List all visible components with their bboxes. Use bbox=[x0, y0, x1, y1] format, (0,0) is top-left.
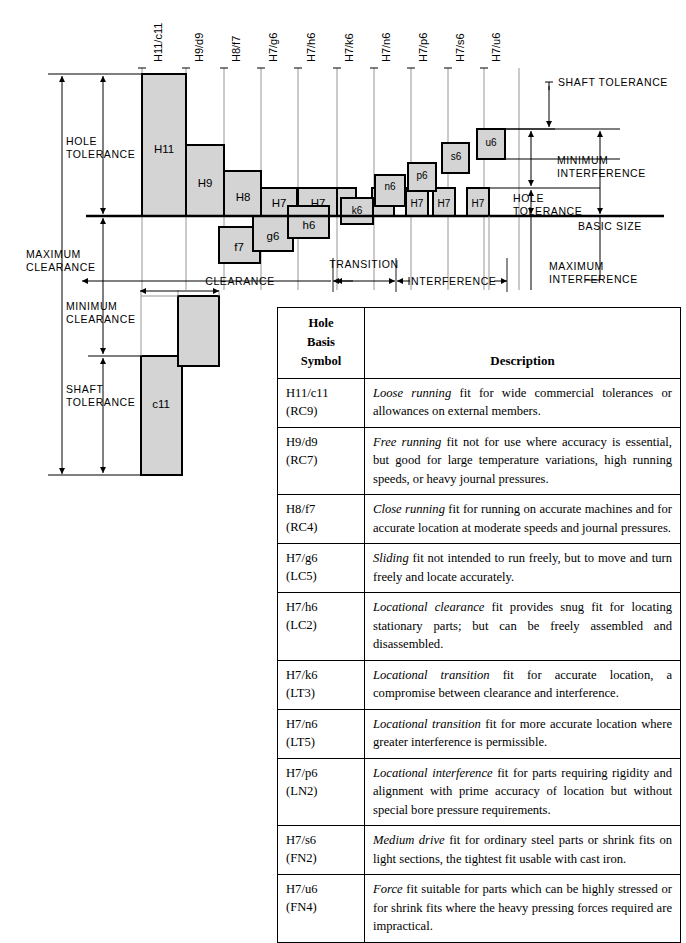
symbol-secondary: (LC5) bbox=[286, 567, 356, 585]
description-text: fit not intended to run freely, but to m… bbox=[373, 551, 672, 584]
column-label: H7/p6 bbox=[417, 33, 429, 62]
hole-bar-label: H7 bbox=[272, 197, 287, 209]
cell-description: Locational interference fit for parts re… bbox=[365, 758, 681, 826]
description-term: Force bbox=[373, 882, 403, 896]
description-term: Locational transition bbox=[373, 717, 481, 731]
symbol-primary: H7/g6 bbox=[286, 549, 356, 567]
hole-bar-label: H7 bbox=[411, 198, 424, 209]
description-term: Locational interference bbox=[373, 766, 493, 780]
hole-bar-label: H8 bbox=[236, 191, 251, 203]
shaft-bar-label: h6 bbox=[303, 219, 316, 231]
hole-bars: H11 H9 H8 H7 H7 H7 H7 H7 H7 H7 bbox=[142, 74, 489, 216]
shaft-bar-label: c11 bbox=[152, 398, 170, 410]
cell-hole-basis-symbol: H7/u6(FN4) bbox=[278, 875, 365, 943]
hole-bar-label: H7 bbox=[472, 198, 485, 209]
description-term: Close running bbox=[373, 502, 445, 516]
table-row: H7/p6(LN2)Locational interference fit fo… bbox=[278, 758, 681, 826]
symbol-secondary: (LT3) bbox=[286, 684, 356, 702]
cell-hole-basis-symbol: H11/c11(RC9) bbox=[278, 378, 365, 427]
shaft-tolerance-right-label: SHAFT TOLERANCE bbox=[558, 76, 668, 88]
minimum-interference-label2: INTERFERENCE bbox=[557, 167, 646, 179]
cell-hole-basis-symbol: H7/n6(LT5) bbox=[278, 709, 365, 758]
column-label: H7/n6 bbox=[380, 33, 392, 62]
cell-description: Locational transition fit for more accur… bbox=[365, 709, 681, 758]
table-row: H7/n6(LT5)Locational transition fit for … bbox=[278, 709, 681, 758]
symbol-primary: H7/p6 bbox=[286, 764, 356, 782]
hole-bar-label: H11 bbox=[154, 143, 174, 155]
cell-description: Locational clearance fit provides snug f… bbox=[365, 593, 681, 661]
table-row: H11/c11(RC9)Loose running fit for wide c… bbox=[278, 378, 681, 427]
shaft-tolerance-left-label2: TOLERANCE bbox=[66, 396, 135, 408]
transition-band-label: TRANSITION bbox=[329, 258, 399, 270]
cell-description: Loose running fit for wide commercial to… bbox=[365, 378, 681, 427]
table-row: H9/d9(RC7)Free running fit not for use w… bbox=[278, 427, 681, 495]
cell-description: Force fit suitable for parts which can b… bbox=[365, 875, 681, 943]
shaft-bar-label: g6 bbox=[267, 230, 280, 242]
maximum-clearance-label: MAXIMUM bbox=[26, 248, 81, 260]
description-text: fit suitable for parts which can be high… bbox=[373, 882, 672, 933]
column-label: H7/k6 bbox=[343, 33, 355, 62]
hole-bar-label: H7 bbox=[438, 198, 451, 209]
symbol-secondary: (RC9) bbox=[286, 402, 356, 420]
table-row: H7/g6(LC5)Sliding fit not intended to ru… bbox=[278, 544, 681, 593]
symbol-primary: H9/d9 bbox=[286, 433, 356, 451]
shaft-bar-label: n6 bbox=[384, 181, 396, 192]
column-label: H8/f7 bbox=[230, 36, 242, 62]
symbol-primary: H7/k6 bbox=[286, 666, 356, 684]
description-term: Locational transition bbox=[373, 668, 490, 682]
shaft-bar-label: k6 bbox=[352, 205, 363, 216]
symbol-primary: H8/f7 bbox=[286, 500, 356, 518]
description-term: Loose running bbox=[373, 386, 451, 400]
table-header-row: Hole Basis Symbol Description bbox=[278, 308, 681, 379]
cell-hole-basis-symbol: H7/h6(LC2) bbox=[278, 593, 365, 661]
cell-hole-basis-symbol: H9/d9(RC7) bbox=[278, 427, 365, 495]
symbol-secondary: (RC4) bbox=[286, 518, 356, 536]
description-term: Sliding bbox=[373, 551, 409, 565]
cell-description: Sliding fit not intended to run freely, … bbox=[365, 544, 681, 593]
description-term: Free running bbox=[373, 435, 441, 449]
hole-bar-label: H9 bbox=[198, 177, 213, 189]
cell-hole-basis-symbol: H7/p6(LN2) bbox=[278, 758, 365, 826]
table-row: H7/k6(LT3)Locational transition fit for … bbox=[278, 660, 681, 709]
symbol-primary: H7/n6 bbox=[286, 715, 356, 733]
maximum-clearance-label2: CLEARANCE bbox=[26, 261, 96, 273]
symbol-primary: H7/h6 bbox=[286, 598, 356, 616]
header-description: Description bbox=[365, 308, 681, 379]
symbol-secondary: (LT5) bbox=[286, 733, 356, 751]
basic-size-label: BASIC SIZE bbox=[578, 220, 642, 232]
table-row: H7/s6(FN2)Medium drive fit for ordinary … bbox=[278, 826, 681, 875]
shaft-tolerance-left-label: SHAFT bbox=[66, 383, 103, 395]
shaft-bar-label: s6 bbox=[451, 151, 462, 162]
minimum-interference-label: MINIMUM bbox=[557, 154, 608, 166]
column-label: H9/d9 bbox=[193, 33, 205, 62]
symbol-secondary: (FN4) bbox=[286, 898, 356, 916]
shaft-bar-label: p6 bbox=[416, 170, 428, 181]
fit-description-table: Hole Basis Symbol Description H11/c11(RC… bbox=[277, 307, 681, 943]
column-label: H11/c11 bbox=[152, 23, 164, 62]
symbol-secondary: (LN2) bbox=[286, 782, 356, 800]
hole-tolerance-left-label2: TOLERANCE bbox=[66, 148, 135, 160]
hole-tolerance-left-label: HOLE bbox=[66, 135, 97, 147]
hole-tolerance-right-label2: TOLERANCE bbox=[513, 205, 582, 217]
maximum-interference-label2: INTERFERENCE bbox=[549, 273, 638, 285]
column-label: H7/s6 bbox=[454, 33, 466, 62]
minimum-clearance-label2: CLEARANCE bbox=[66, 313, 136, 325]
cell-description: Locational transition fit for accurate l… bbox=[365, 660, 681, 709]
symbol-primary: H11/c11 bbox=[286, 384, 356, 402]
cell-hole-basis-symbol: H7/k6(LT3) bbox=[278, 660, 365, 709]
symbol-secondary: (RC7) bbox=[286, 451, 356, 469]
description-term: Locational clearance bbox=[373, 600, 484, 614]
interference-band-label: INTERFERENCE bbox=[408, 275, 497, 287]
cell-hole-basis-symbol: H7/s6(FN2) bbox=[278, 826, 365, 875]
cell-description: Medium drive fit for ordinary steel part… bbox=[365, 826, 681, 875]
cell-hole-basis-symbol: H7/g6(LC5) bbox=[278, 544, 365, 593]
table-row: H8/f7(RC4)Close running fit for running … bbox=[278, 495, 681, 544]
table-row: H7/u6(FN4)Force fit suitable for parts w… bbox=[278, 875, 681, 943]
symbol-secondary: (FN2) bbox=[286, 849, 356, 867]
column-label: H7/h6 bbox=[305, 33, 317, 62]
column-label-group: H11/c11 H9/d9 H8/f7 H7/g6 H7/h6 H7/k6 H7… bbox=[152, 23, 502, 62]
header-hole-basis-symbol: Hole Basis Symbol bbox=[278, 308, 365, 379]
cell-description: Close running fit for running on accurat… bbox=[365, 495, 681, 544]
clearance-band-label: CLEARANCE bbox=[205, 275, 275, 287]
table-body: H11/c11(RC9)Loose running fit for wide c… bbox=[278, 378, 681, 942]
